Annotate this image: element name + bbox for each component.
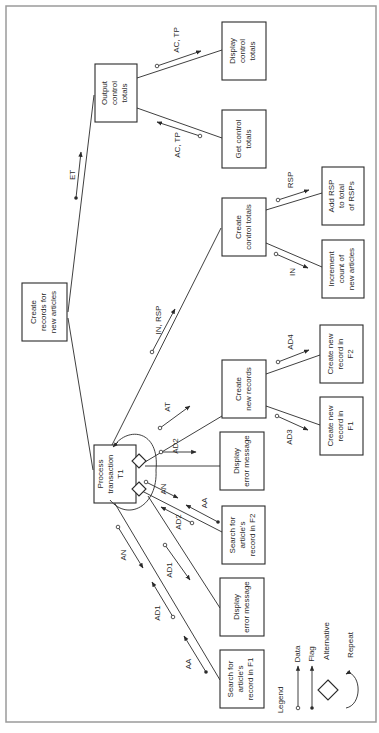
svg-text:Alternative: Alternative: [322, 622, 331, 660]
svg-text:of RSPs: of RSPs: [347, 181, 356, 210]
module-add-rsp-to-total: Add RSP to total of RSPs: [322, 167, 364, 225]
svg-text:Create: Create: [234, 376, 243, 401]
module-display-error-message-1: Display error message: [220, 578, 264, 636]
connector-createrecords-f1: [266, 406, 320, 425]
svg-text:Create new: Create new: [326, 333, 335, 374]
svg-text:totals: totals: [248, 41, 257, 60]
connector-process-searchf1: [114, 502, 220, 680]
legend-repeat: Repeat: [346, 631, 358, 708]
connector-process-createrecords: [145, 416, 222, 462]
svg-text:totals: totals: [120, 83, 129, 102]
svg-text:article's: article's: [236, 666, 245, 693]
module-search-record-f1: Search for article's record in F1: [220, 650, 264, 708]
connector-createtotals-addrsp: [266, 193, 322, 210]
module-connections: [68, 50, 322, 680]
svg-text:Search for: Search for: [228, 516, 237, 553]
connector-createrecords-f2: [266, 355, 320, 374]
svg-text:Display: Display: [232, 594, 241, 620]
connector-root-process: [68, 318, 93, 470]
diamond-icon: [318, 680, 338, 700]
svg-text:records for: records for: [39, 293, 48, 332]
svg-text:new articles: new articles: [347, 248, 356, 290]
svg-text:control: control: [110, 81, 119, 105]
svg-text:transaction: transaction: [106, 454, 115, 493]
svg-text:AN: AN: [159, 483, 168, 494]
couple-ad2-f2: AD2: [161, 507, 194, 530]
svg-text:Legend: Legend: [276, 687, 285, 714]
svg-text:AD2: AD2: [174, 514, 183, 530]
couple-ac-tp-in: AC, TP: [157, 122, 202, 158]
loop-arc-icon: [346, 672, 358, 708]
svg-text:Flag: Flag: [307, 646, 316, 662]
couple-rsp: RSP: [276, 172, 309, 202]
svg-text:control totals: control totals: [244, 204, 253, 249]
svg-text:IN: IN: [288, 268, 297, 276]
module-display-error-message-2: Display error message: [220, 432, 264, 490]
svg-text:record in: record in: [336, 338, 345, 369]
connector-root-output: [68, 95, 94, 312]
svg-text:record in F2: record in F2: [248, 513, 257, 556]
svg-text:T1: T1: [116, 469, 125, 479]
couple-ad1-err: AD1: [163, 543, 190, 580]
svg-text:AA: AA: [200, 497, 209, 508]
svg-text:AD3: AD3: [285, 429, 294, 445]
connector-output-display: [137, 50, 222, 78]
svg-text:new records: new records: [244, 367, 253, 411]
svg-text:control: control: [238, 39, 247, 63]
svg-text:error message: error message: [242, 435, 251, 487]
couple-et-flag: ET: [68, 152, 81, 200]
svg-text:Data: Data: [293, 645, 302, 662]
svg-text:F1: F1: [346, 421, 355, 431]
module-create-new-record-f1: Create new record in F1: [320, 397, 363, 455]
module-process-transaction: Process transaction T1: [94, 434, 156, 510]
svg-text:AD2: AD2: [171, 438, 180, 454]
couple-in-rsp: IN, RSP: [150, 306, 175, 354]
svg-text:Create: Create: [234, 214, 243, 239]
svg-text:totals: totals: [244, 129, 253, 148]
legend-flag-couple: Flag: [307, 646, 316, 710]
svg-text:RSP: RSP: [286, 172, 295, 188]
legend: Legend Data Flag Alternative Repeat: [276, 622, 358, 714]
svg-text:AC, TP: AC, TP: [173, 132, 182, 158]
svg-text:F2: F2: [346, 349, 355, 359]
module-create-new-record-f2: Create new record in F2: [320, 325, 363, 383]
svg-text:Add RSP: Add RSP: [327, 180, 336, 213]
svg-text:Create new: Create new: [326, 405, 335, 446]
svg-text:AD4: AD4: [286, 334, 295, 350]
svg-text:Create: Create: [29, 299, 38, 324]
svg-text:Process: Process: [96, 460, 105, 489]
svg-text:AD1: AD1: [165, 562, 174, 578]
svg-text:AD1: AD1: [153, 605, 162, 621]
couple-ac-tp-out: AC, TP: [155, 27, 201, 68]
svg-text:Increment: Increment: [327, 250, 336, 286]
svg-text:ET: ET: [68, 170, 77, 180]
couple-ad2-top: AD2: [159, 438, 196, 454]
svg-text:AN: AN: [119, 549, 128, 560]
structure-chart-canvas: Create records for new articles Output c…: [0, 0, 379, 733]
svg-text:Get control: Get control: [234, 119, 243, 158]
legend-alternative: Alternative: [318, 622, 338, 700]
svg-text:AA: AA: [184, 658, 193, 669]
structure-chart-figure: Create records for new articles Output c…: [0, 0, 379, 733]
svg-text:AC, TP: AC, TP: [172, 27, 181, 53]
svg-text:new articles: new articles: [49, 291, 58, 333]
svg-text:IN, RSP: IN, RSP: [154, 306, 163, 335]
couples: ET AC, TP AC, TP IN, RSP RSP: [68, 27, 309, 674]
svg-text:record in: record in: [336, 410, 345, 441]
svg-text:AT: AT: [163, 402, 172, 412]
couple-ad4: AD4: [276, 334, 309, 364]
svg-text:error message: error message: [242, 581, 251, 633]
svg-text:Output: Output: [100, 80, 109, 105]
svg-text:count of: count of: [337, 254, 346, 283]
module-create-new-records: Create new records: [222, 360, 266, 418]
svg-text:record in F1: record in F1: [246, 657, 255, 700]
couple-ad1-f1: AD1: [152, 582, 175, 621]
svg-text:Display: Display: [232, 448, 241, 474]
module-get-control-totals: Get control totals: [222, 110, 266, 168]
svg-text:article's: article's: [238, 522, 247, 549]
svg-text:Display: Display: [228, 38, 237, 64]
couple-at: AT: [158, 402, 190, 430]
svg-text:Search for: Search for: [226, 660, 235, 697]
module-increment-count: Increment count of new articles: [322, 240, 364, 298]
couple-an-f2: AN: [144, 480, 178, 498]
